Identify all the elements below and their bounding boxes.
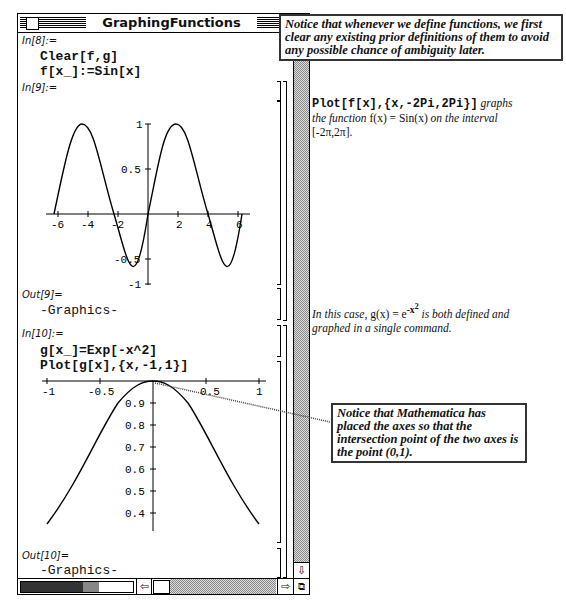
callout-line: [0, 0, 566, 610]
note-axes-intersection: Notice that Mathematica has placed the a…: [331, 403, 527, 463]
